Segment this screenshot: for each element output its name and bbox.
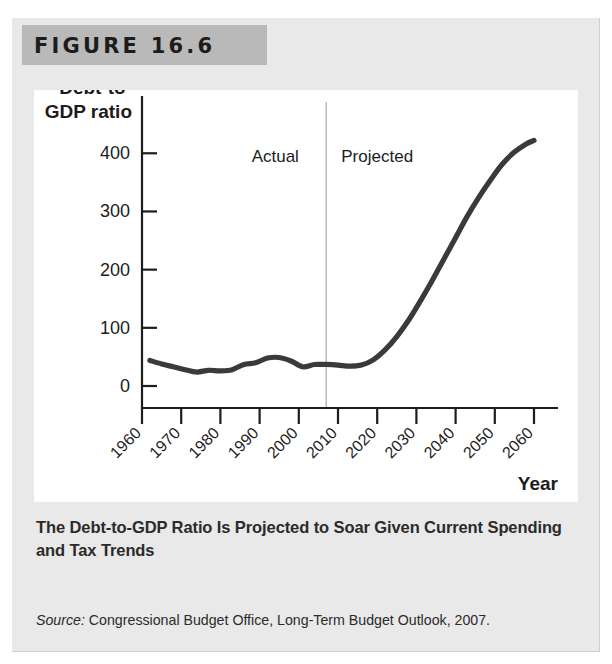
x-tick-label: 1990 (225, 424, 262, 461)
source-text: Congressional Budget Office, Long-Term B… (85, 612, 490, 628)
chart-axes (142, 96, 558, 424)
x-axis-title: Year (518, 473, 559, 494)
figure-panel: FIGURE 16.6 ActualProjected 010020030040… (12, 18, 600, 652)
chart-card: ActualProjected 0100200300400 1960197019… (34, 90, 578, 502)
x-axis-tick-labels: 1960197019801990200020102020203020402050… (107, 424, 536, 461)
x-tick-label: 2010 (303, 424, 340, 461)
source-prefix: Source: (36, 612, 85, 628)
debt-to-gdp-line-chart: ActualProjected 0100200300400 1960197019… (34, 90, 578, 502)
x-axis-title-label: Year (518, 473, 559, 494)
y-tick-label: 0 (120, 376, 130, 396)
y-tick-label: 100 (100, 318, 130, 338)
y-axis-title-line: Debt-to- (59, 90, 132, 98)
x-tick-label: 2000 (264, 424, 301, 461)
y-axis-title-line: GDP ratio (45, 101, 132, 122)
x-tick-label: 2060 (499, 424, 536, 461)
figure-source-note: Source: Congressional Budget Office, Lon… (36, 610, 581, 630)
y-tick-label: 400 (100, 143, 130, 163)
x-tick-label: 2050 (460, 424, 497, 461)
figure-number-label: FIGURE 16.6 (34, 34, 215, 58)
x-tick-label: 2040 (421, 424, 458, 461)
projected-label: Projected (341, 147, 413, 166)
debt-to-gdp-line (150, 140, 534, 372)
x-tick-label: 2030 (381, 424, 418, 461)
actual-label: Actual (252, 147, 299, 166)
data-series-line (150, 140, 534, 372)
y-axis-tick-labels: 0100200300400 (100, 143, 130, 396)
figure-caption: The Debt-to-GDP Ratio Is Projected to So… (36, 516, 581, 562)
x-tick-label: 1970 (146, 424, 183, 461)
x-tick-label: 1980 (185, 424, 222, 461)
x-tick-label: 2020 (342, 424, 379, 461)
y-tick-label: 300 (100, 201, 130, 221)
y-tick-label: 200 (100, 260, 130, 280)
chart-annotations: ActualProjected (252, 147, 413, 166)
y-axis-title: Debt-to-GDP ratio (45, 90, 132, 122)
x-tick-label: 1960 (107, 424, 144, 461)
